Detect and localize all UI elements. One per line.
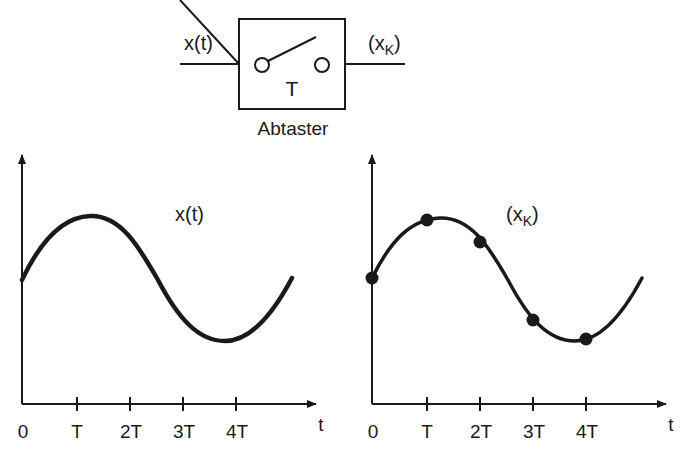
tick-label-T: T	[421, 421, 433, 442]
continuous-signal-curve	[22, 216, 292, 341]
sampler-block: T Abtaster x(t) (xK)	[180, 0, 405, 139]
sample-point-3T	[527, 314, 540, 327]
sampling-diagram: T Abtaster x(t) (xK) x(t) 0 T 2T 3T 4T t	[0, 0, 686, 455]
sample-point-0	[366, 272, 379, 285]
sample-point-4T	[580, 333, 593, 346]
switch-contact-right	[315, 58, 329, 72]
right-plot: (xK) 0 T 2T 3T 4T t	[366, 155, 675, 442]
tick-label-0: 0	[18, 421, 29, 442]
curve-label: (xK)	[506, 203, 539, 229]
underlying-signal-curve	[372, 218, 642, 341]
tick-label-0: 0	[368, 421, 379, 442]
x-axis-label: t	[668, 414, 674, 435]
switch-lever-icon	[268, 37, 316, 61]
sample-point-2T	[474, 236, 487, 249]
x-axis-label: t	[318, 414, 324, 435]
tick-label-3T: 3T	[173, 421, 196, 442]
sample-points	[366, 214, 593, 346]
tick-label-2T: 2T	[120, 421, 143, 442]
sample-point-T	[421, 214, 434, 227]
tick-label-3T: 3T	[523, 421, 546, 442]
tick-label-4T: 4T	[226, 421, 249, 442]
left-plot: x(t) 0 T 2T 3T 4T t	[18, 155, 325, 442]
tick-label-2T: 2T	[470, 421, 493, 442]
tick-labels: 0 T 2T 3T 4T	[368, 421, 599, 442]
tick-label-T: T	[71, 421, 83, 442]
curve-label: x(t)	[175, 203, 204, 225]
period-label: T	[286, 77, 299, 100]
output-label: (xK)	[368, 32, 401, 58]
sampler-caption: Abtaster	[258, 118, 329, 139]
input-label: x(t)	[184, 32, 213, 54]
tick-labels: 0 T 2T 3T 4T	[18, 421, 249, 442]
tick-label-4T: 4T	[576, 421, 599, 442]
switch-contact-left	[255, 58, 269, 72]
